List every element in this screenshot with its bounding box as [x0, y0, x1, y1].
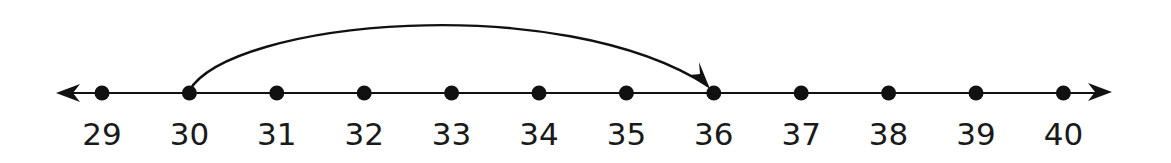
tick-label-34: 34: [519, 116, 558, 152]
point-30: [182, 86, 197, 101]
tick-label-32: 32: [344, 116, 383, 152]
tick-label-29: 29: [82, 116, 121, 152]
point-31: [269, 86, 284, 101]
point-33: [444, 86, 459, 101]
tick-label-39: 39: [956, 116, 995, 152]
point-37: [794, 86, 809, 101]
point-38: [881, 86, 896, 101]
tick-label-36: 36: [694, 116, 733, 152]
tick-label-38: 38: [869, 116, 908, 152]
point-40: [1056, 86, 1071, 101]
tick-label-40: 40: [1044, 116, 1083, 152]
tick-label-30: 30: [170, 116, 209, 152]
point-39: [969, 86, 984, 101]
point-34: [532, 86, 547, 101]
jump-arrowhead-icon: [690, 62, 710, 89]
point-36: [706, 86, 721, 101]
tick-group: 293031323334353637383940: [82, 86, 1083, 153]
tick-label-33: 33: [432, 116, 471, 152]
point-35: [619, 86, 634, 101]
tick-label-37: 37: [781, 116, 820, 152]
number-line-diagram: 293031323334353637383940: [0, 0, 1171, 163]
point-29: [95, 86, 110, 101]
tick-label-31: 31: [257, 116, 296, 152]
point-32: [357, 86, 372, 101]
jump-arc: [189, 25, 708, 91]
tick-label-35: 35: [607, 116, 646, 152]
